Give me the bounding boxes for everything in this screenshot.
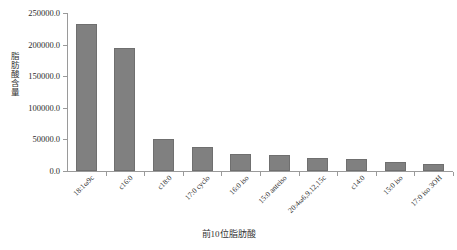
bar[interactable] (423, 164, 444, 171)
x-tick-label: 18:1ω9c (72, 174, 96, 198)
bar[interactable] (307, 158, 328, 171)
x-tick-label: 15:0 iso (382, 174, 405, 197)
y-tick-label: 0.0 (14, 167, 60, 176)
bar[interactable] (269, 155, 290, 171)
plot-area (67, 13, 453, 172)
bar[interactable] (114, 48, 135, 171)
bar[interactable] (385, 162, 406, 171)
x-tick-label: 17:0 cyclo (184, 174, 212, 202)
x-axis-tick-labels: 18:1ω9cc16:0c18:017:0 cyclo16:0 iso15:0 … (67, 174, 453, 234)
x-tick-mark (453, 172, 454, 176)
y-tick-label: 150000.0 (14, 72, 60, 81)
y-tick-label: 100000.0 (14, 104, 60, 113)
x-tick-label: 20:4ω6,9,12,15c (287, 174, 328, 215)
bar[interactable] (230, 154, 251, 171)
y-tick-label: 50000.0 (14, 135, 60, 144)
bar[interactable] (192, 147, 213, 171)
bar[interactable] (153, 139, 174, 171)
x-tick-label: c16:0 (117, 174, 134, 191)
y-axis-line (67, 13, 68, 172)
y-tick-mark (63, 139, 67, 140)
y-tick-mark (63, 76, 67, 77)
x-tick-label: c18:0 (156, 174, 173, 191)
x-tick-label: c14:0 (349, 174, 366, 191)
y-tick-mark (63, 45, 67, 46)
y-tick-label: 200000.0 (14, 41, 60, 50)
x-axis-title: 前10位脂肪酸 (0, 229, 457, 239)
x-tick-label: 17:0 iso 3OH (409, 174, 443, 208)
y-tick-label: 250000.0 (14, 9, 60, 18)
x-tick-label: 16:0 iso (228, 174, 251, 197)
y-axis-tick-labels: 250000.0200000.0150000.0100000.050000.00… (12, 0, 60, 250)
bar[interactable] (346, 159, 367, 171)
bar[interactable] (76, 24, 97, 171)
y-tick-mark (63, 171, 67, 172)
y-tick-mark (63, 108, 67, 109)
y-tick-mark (63, 13, 67, 14)
x-tick-label: 15:0 anteiso (258, 174, 289, 205)
bar-chart: 脂肪酸含量 250000.0200000.0150000.0100000.050… (0, 0, 457, 250)
